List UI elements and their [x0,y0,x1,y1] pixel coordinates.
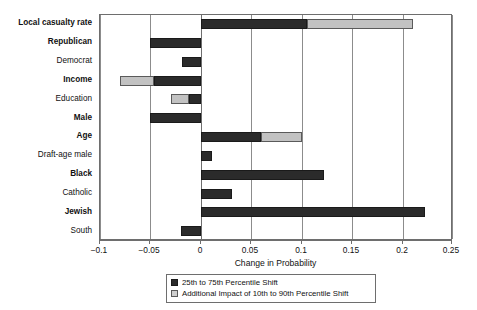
y-axis-label-democrat: Democrat [57,56,93,65]
x-tick-label-5: 0.15 [331,245,371,255]
bar-segment-dark-south [181,226,201,236]
x-axis-line [99,240,452,241]
x-tick-label-2: 0 [180,245,220,255]
y-axis-label-jewish: Jewish [65,207,92,216]
bar-segment-dark-catholic [201,189,232,199]
x-tick-4 [301,240,302,244]
plot-area [99,14,452,240]
x-tick-0 [99,240,100,244]
gridline-7 [452,15,453,239]
x-axis-title: Change in Probability [99,258,452,268]
y-axis-label-age: Age [77,131,92,140]
bar-segment-dark-local-casualty-rate [201,19,307,29]
bar-segment-dark-republican [150,38,200,48]
x-tick-label-1: −0.05 [129,245,169,255]
x-tick-3 [250,240,251,244]
legend-swatch-light-icon [171,290,178,297]
bar-segment-dark-age [201,132,262,142]
table-row [100,203,451,222]
legend-label: Additional Impact of 10th to 90th Percen… [182,289,348,298]
legend-item-1: 25th to 75th Percentile Shift [171,277,371,288]
bar-segment-dark-male [150,113,200,123]
y-axis-label-local-casualty-rate: Local casualty rate [18,18,92,27]
x-tick-5 [351,240,352,244]
chart-legend: 25th to 75th Percentile ShiftAdditional … [166,274,376,303]
legend-item-2: Additional Impact of 10th to 90th Percen… [171,288,371,299]
y-axis-label-education: Education [56,94,92,103]
y-axis-label-income: Income [63,75,92,84]
bar-chart-figure: Local casualty rateRepublicanDemocratInc… [0,0,477,310]
x-tick-7 [451,240,452,244]
bar-segment-dark-democrat [182,57,201,67]
x-tick-label-0: −0.1 [79,245,119,255]
table-row [100,147,451,166]
y-axis-label-south: South [71,226,92,235]
x-tick-label-4: 0.1 [281,245,321,255]
bar-segment-dark-draft-age-male [201,151,212,161]
table-row [100,34,451,53]
bar-segment-dark-education [189,94,201,104]
bar-segment-light-education [171,94,189,104]
table-row [100,53,451,72]
bar-segment-dark-income [154,76,200,86]
table-row [100,15,451,34]
y-axis-label-catholic: Catholic [62,188,92,197]
table-row [100,90,451,109]
bar-segment-light-age [261,132,301,142]
table-row [100,222,451,241]
table-row [100,72,451,91]
x-tick-label-6: 0.2 [382,245,422,255]
table-row [100,109,451,128]
legend-label: 25th to 75th Percentile Shift [182,278,278,287]
bar-segment-dark-black [201,170,324,180]
y-axis-label-republican: Republican [48,37,92,46]
y-axis-label-black: Black [70,169,92,178]
legend-swatch-dark-icon [171,279,178,286]
y-axis-category-labels: Local casualty rateRepublicanDemocratInc… [0,14,96,240]
x-tick-label-3: 0.05 [230,245,270,255]
bar-segment-dark-jewish [201,207,425,217]
table-row [100,166,451,185]
x-tick-2 [200,240,201,244]
x-tick-6 [402,240,403,244]
y-axis-label-draft-age-male: Draft-age male [38,150,92,159]
x-tick-1 [149,240,150,244]
y-axis-label-male: Male [74,113,92,122]
bar-segment-light-income [120,76,154,86]
bar-segment-light-local-casualty-rate [307,19,413,29]
x-tick-label-7: 0.25 [431,245,471,255]
table-row [100,185,451,204]
table-row [100,128,451,147]
